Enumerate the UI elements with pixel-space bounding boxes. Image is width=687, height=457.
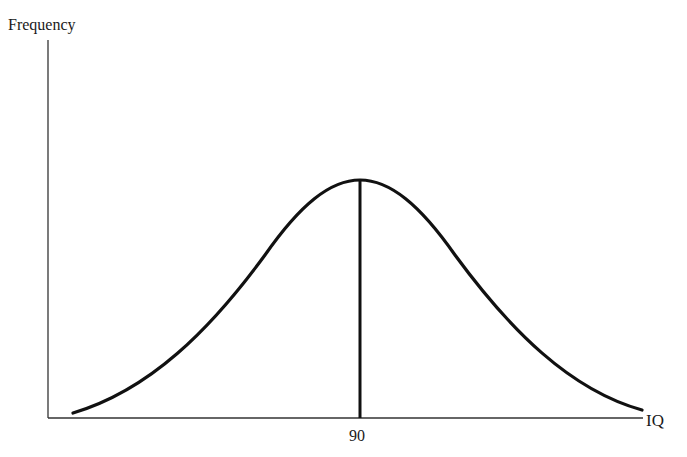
x-axis-label: IQ <box>646 412 664 429</box>
chart-canvas <box>0 0 687 457</box>
y-axis-label: Frequency <box>8 17 76 33</box>
normal-curve <box>73 180 642 413</box>
x-tick-label-mean: 90 <box>349 428 365 444</box>
